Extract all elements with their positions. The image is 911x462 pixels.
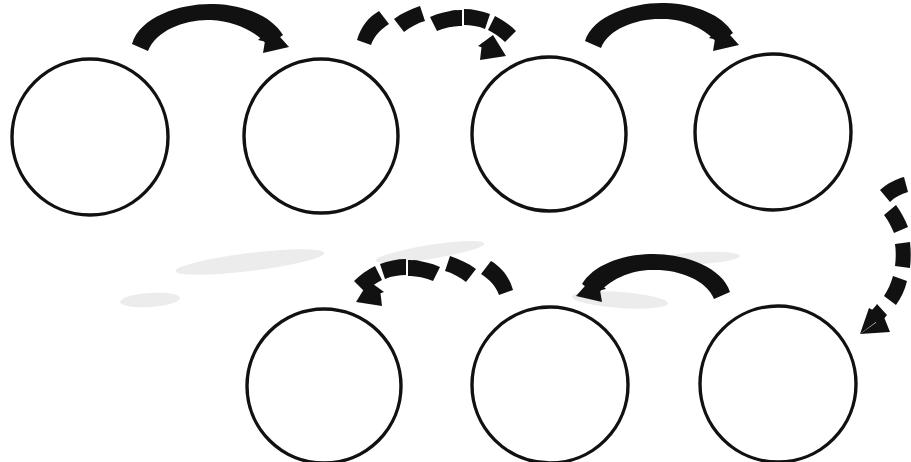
node-circle-3[interactable] (472, 57, 626, 211)
cycle-diagram-svg (0, 0, 911, 462)
node-circle-5[interactable] (700, 306, 856, 462)
arrow-4-dashed-down[interactable] (860, 177, 911, 334)
arrow-6-dashed-left[interactable] (354, 256, 513, 306)
arrow-3-solid-right[interactable] (585, 3, 739, 51)
diagram-canvas: Cycle process diagram (0, 0, 911, 462)
node-circle-1[interactable] (12, 59, 168, 215)
arrow-2-dashed-right[interactable] (357, 6, 516, 60)
node-circle-4[interactable] (695, 54, 851, 210)
node-circle-7[interactable] (247, 309, 401, 462)
arrow-1-solid-right[interactable] (132, 4, 289, 53)
node-circle-6[interactable] (472, 307, 628, 462)
node-circle-2[interactable] (244, 59, 398, 213)
